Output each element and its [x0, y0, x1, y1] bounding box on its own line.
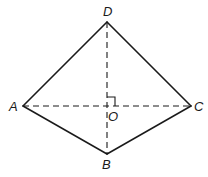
- edge-DC: [107, 22, 191, 106]
- label-D: D: [103, 4, 112, 19]
- label-O: O: [108, 109, 118, 124]
- edge-AD: [23, 22, 107, 106]
- kite-diagram: D A C B O: [0, 0, 208, 177]
- label-A: A: [8, 99, 18, 114]
- edge-BA: [23, 106, 107, 154]
- right-angle-marker: [107, 97, 115, 106]
- label-B: B: [102, 157, 111, 172]
- edge-CB: [107, 106, 191, 154]
- label-C: C: [194, 99, 204, 114]
